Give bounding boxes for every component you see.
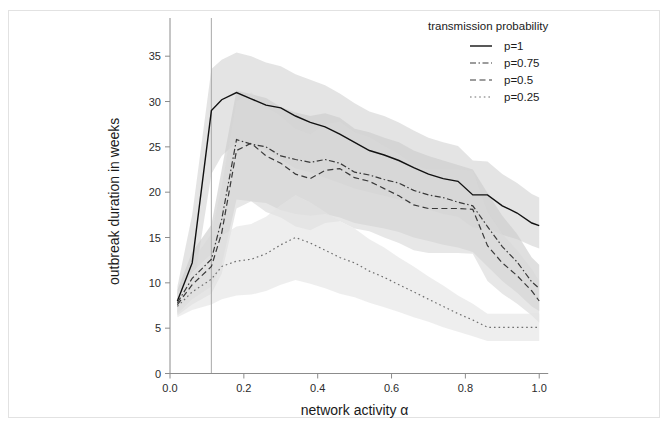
y-tick-label: 25 (149, 141, 161, 153)
x-tick-label: 1.0 (532, 382, 547, 394)
y-tick-label: 10 (149, 277, 161, 289)
confidence-bands (177, 53, 539, 341)
legend-label-p075[interactable]: p=0.75 (504, 57, 540, 69)
figure-root: 0.00.20.40.60.81.005101520253035network … (0, 0, 667, 425)
x-tick-label: 0.2 (236, 382, 251, 394)
legend-title: transmission probability (428, 20, 548, 32)
x-tick-label: 0.0 (162, 382, 177, 394)
y-tick-label: 5 (155, 322, 161, 334)
x-tick-label: 0.6 (384, 382, 399, 394)
y-tick-label: 35 (149, 50, 161, 62)
legend-label-p025[interactable]: p=0.25 (504, 91, 540, 103)
legend: transmission probabilityp=1p=0.75p=0.5p=… (428, 20, 548, 103)
y-tick-label: 30 (149, 96, 161, 108)
chart-canvas: 0.00.20.40.60.81.005101520253035network … (0, 0, 667, 425)
y-tick-label: 20 (149, 186, 161, 198)
x-axis-title: network activity α (301, 402, 409, 418)
legend-label-p1[interactable]: p=1 (504, 40, 524, 52)
y-tick-label: 15 (149, 232, 161, 244)
x-tick-label: 0.4 (310, 382, 325, 394)
y-tick-label: 0 (155, 368, 161, 380)
y-axis-title: outbreak duration in weeks (106, 118, 122, 285)
x-tick-label: 0.8 (458, 382, 473, 394)
legend-label-p05[interactable]: p=0.5 (504, 74, 533, 86)
